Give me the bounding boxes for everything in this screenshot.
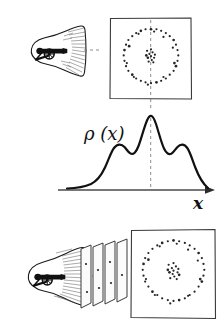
figure-canvas: ρ (x) x [0, 0, 223, 333]
impact-dot [127, 39, 129, 41]
impact-dot [172, 262, 174, 264]
impact-dot [150, 55, 152, 57]
impact-dot [177, 54, 179, 56]
x-axis-label: x [192, 193, 204, 213]
impact-dot [201, 280, 204, 283]
impact-dot [140, 80, 142, 82]
impact-dot [167, 240, 169, 242]
impact-dot [184, 297, 186, 299]
impact-dot [175, 265, 177, 267]
impact-dot [169, 302, 171, 304]
impact-dot [178, 240, 180, 242]
plate-2 [93, 243, 103, 306]
impact-dot [126, 62, 128, 64]
impact-dot [169, 277, 171, 279]
target-square-top [110, 18, 192, 99]
impact-dot [201, 257, 203, 259]
impact-dot [131, 73, 134, 76]
impact-dot [142, 275, 144, 277]
impact-dot [169, 35, 171, 37]
impact-dot [155, 81, 158, 84]
panel-middle: ρ (x) x [58, 116, 215, 213]
impact-dot [151, 59, 153, 61]
impact-dot [172, 270, 174, 272]
impact-dot [144, 28, 146, 30]
impact-dot [172, 300, 174, 302]
impact-dot [178, 299, 181, 302]
impact-dot [172, 239, 175, 242]
impact-dot [153, 57, 155, 59]
impact-dot [173, 62, 176, 65]
impact-dot [176, 60, 178, 62]
impact-dot [187, 295, 189, 297]
cannon-glyph-bottom [34, 274, 65, 286]
impact-dot [147, 56, 150, 59]
impact-dot [146, 50, 148, 52]
impact-dot [142, 263, 145, 266]
density-label-group: ρ (x) [83, 123, 125, 144]
impact-dot [151, 51, 153, 53]
panel-bottom [28, 230, 215, 319]
diagram-svg: ρ (x) x [0, 0, 223, 333]
impact-dot [199, 278, 202, 281]
impact-dot [162, 36, 164, 38]
impact-dot [165, 32, 167, 34]
impact-dot [172, 39, 175, 42]
impact-dot [162, 76, 164, 78]
impact-dot [175, 44, 177, 46]
impact-dot [152, 61, 154, 63]
impact-dot [125, 65, 127, 67]
impact-dot [123, 60, 125, 62]
density-label: ρ (x) [83, 123, 125, 144]
panel-top [31, 18, 191, 110]
impact-dot [147, 258, 150, 261]
impact-dot [178, 273, 181, 276]
impact-dot [175, 65, 178, 68]
impact-dot [148, 53, 150, 55]
impact-dot [131, 35, 133, 37]
impact-dot [147, 84, 149, 86]
impact-dot [153, 30, 155, 32]
impact-dot [133, 76, 135, 78]
impact-dot [161, 242, 164, 245]
impact-dot [176, 278, 178, 280]
impact-dot [202, 263, 204, 265]
impact-dot [150, 48, 152, 50]
plate-stack [81, 239, 127, 308]
impact-dot [177, 268, 179, 270]
impact-dot [137, 33, 139, 35]
impact-dot [193, 291, 195, 293]
impact-dot [127, 70, 129, 72]
impact-dot [161, 297, 163, 299]
cannon-top [31, 26, 101, 76]
impact-dot [167, 299, 169, 301]
impact-dot [145, 278, 147, 280]
impact-dot [147, 252, 149, 254]
impact-dot [144, 280, 146, 282]
impact-dot [151, 248, 153, 250]
impact-dot [160, 30, 162, 32]
impact-dot [184, 242, 186, 244]
impact-dot [135, 77, 137, 79]
impact-dot [151, 290, 154, 293]
impact-dot [148, 60, 150, 62]
impact-dot [147, 286, 149, 288]
impact-dot [172, 273, 174, 275]
impact-dot [176, 271, 178, 273]
impact-dot [171, 267, 173, 269]
impact-dot [198, 286, 200, 288]
plate-4 [117, 239, 127, 302]
impact-dot [197, 259, 199, 261]
impact-dot [150, 28, 153, 31]
impact-dot [172, 47, 174, 49]
cannon-glyph-top [36, 48, 67, 60]
impact-dot [150, 82, 152, 84]
impact-dot [203, 269, 205, 271]
impact-dot [168, 271, 171, 274]
impact-dot [189, 244, 191, 246]
impact-dot [168, 264, 170, 266]
impact-dot [142, 269, 144, 271]
impact-dot [156, 244, 158, 246]
impact-dot [156, 294, 158, 296]
target-square-bottom [131, 230, 216, 319]
